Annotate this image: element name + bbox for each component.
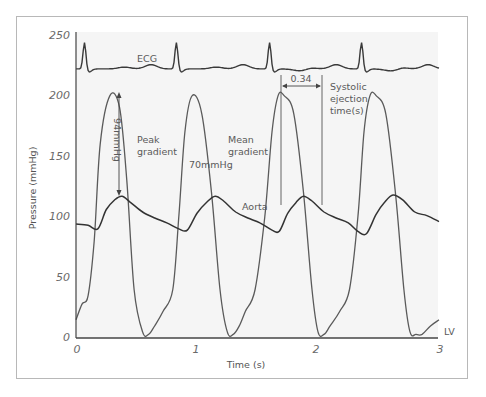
x-tick-2: 2 — [313, 343, 320, 356]
peak-gradient-label-1: Peak — [137, 134, 160, 145]
y-axis-title: Pressure (mmHg) — [27, 147, 38, 230]
x-axis-ticks: 0 1 2 3 — [74, 343, 444, 356]
y-tick-250: 250 — [49, 29, 70, 42]
ejection-time-label-1: Systolic — [330, 81, 367, 92]
x-tick-3: 3 — [437, 343, 444, 356]
x-axis-title: Time (s) — [226, 359, 266, 370]
ecg-label: ECG — [137, 53, 157, 64]
y-tick-200: 200 — [49, 89, 70, 102]
y-tick-50: 50 — [56, 271, 70, 284]
pressure-chart: 250 200 150 100 50 0 0 1 2 3 Time (s) Pr… — [0, 0, 486, 397]
ejection-time-label-3: time(s) — [330, 105, 364, 116]
peak-gradient-label-2: gradient — [137, 146, 177, 157]
aorta-label: Aorta — [242, 201, 268, 212]
peak-gradient-value: 94mmHg — [112, 118, 123, 162]
ejection-time-label-2: ejection — [330, 93, 368, 104]
y-tick-100: 100 — [49, 210, 70, 223]
mean-gradient-label-1: Mean — [228, 134, 254, 145]
x-tick-1: 1 — [193, 343, 200, 356]
mean-gradient-label-2: gradient — [228, 146, 268, 157]
lv-label: LV — [444, 326, 455, 337]
x-tick-0: 0 — [74, 343, 81, 356]
y-axis-ticks: 250 200 150 100 50 0 — [49, 29, 70, 344]
mean-gradient-value: 70mmHg — [189, 159, 233, 170]
y-tick-0: 0 — [63, 331, 70, 344]
plot-area — [76, 32, 438, 338]
y-tick-150: 150 — [49, 150, 70, 163]
ejection-time-value: 0.34 — [290, 73, 311, 84]
